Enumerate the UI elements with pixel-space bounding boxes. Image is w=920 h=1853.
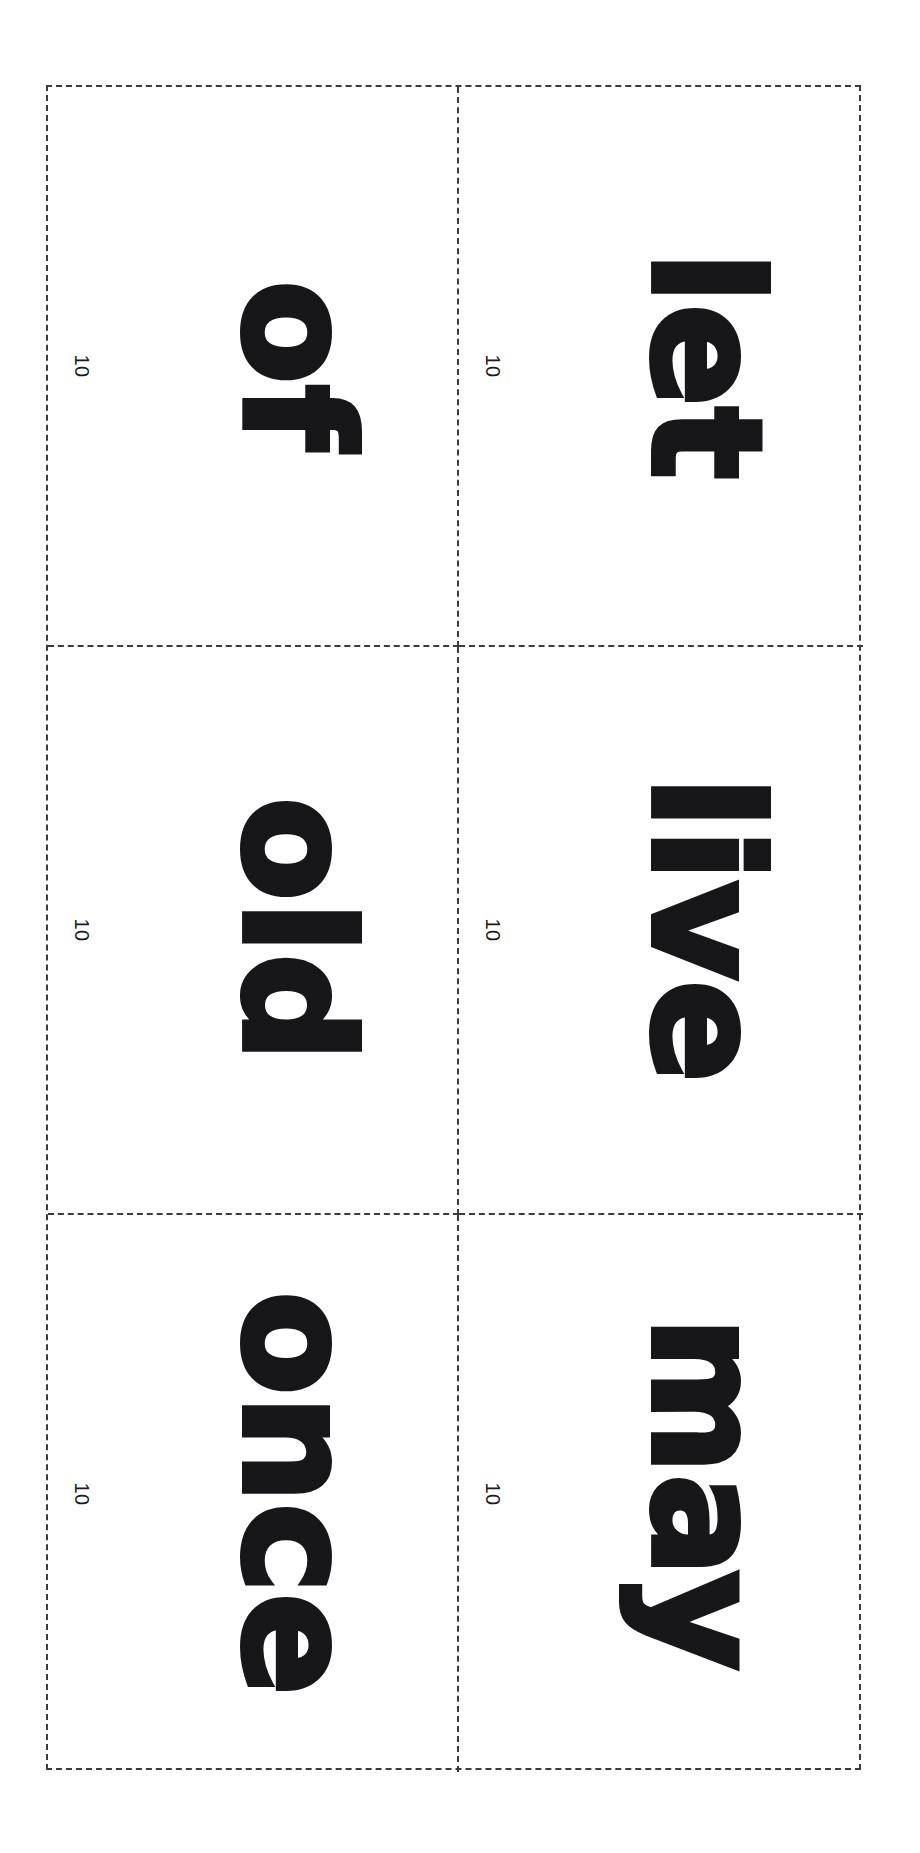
flashcard-cell[interactable]: may 10 bbox=[459, 1215, 863, 1772]
flashcard-tag: 10 bbox=[483, 918, 503, 941]
flashcard-word: once bbox=[223, 1291, 373, 1696]
flashcard-word-container: let bbox=[459, 87, 863, 645]
flashcard-sheet: of 10 let 10 old 10 live 10 bbox=[46, 85, 861, 1770]
flashcard-tag: 10 bbox=[483, 354, 503, 377]
flashcard-word-container: live bbox=[459, 647, 863, 1213]
flashcard-cell[interactable]: of 10 bbox=[48, 87, 459, 647]
flashcard-word: may bbox=[631, 1317, 781, 1671]
flashcard-word: let bbox=[631, 252, 781, 480]
flashcard-word: old bbox=[223, 798, 373, 1063]
flashcard-word: live bbox=[631, 777, 781, 1083]
flashcard-cell[interactable]: once 10 bbox=[48, 1215, 459, 1772]
flashcard-tag: 10 bbox=[483, 1482, 503, 1505]
flashcard-cell[interactable]: old 10 bbox=[48, 647, 459, 1215]
flashcard-word-container: may bbox=[459, 1215, 863, 1772]
flashcard-tag: 10 bbox=[72, 918, 92, 941]
flashcard-word-container: old bbox=[48, 647, 457, 1213]
flashcard-tag: 10 bbox=[72, 1482, 92, 1505]
flashcard-cell[interactable]: let 10 bbox=[459, 87, 863, 647]
flashcard-word-container: of bbox=[48, 87, 457, 645]
flashcard-cell[interactable]: live 10 bbox=[459, 647, 863, 1215]
flashcard-word-container: once bbox=[48, 1215, 457, 1772]
flashcard-word: of bbox=[223, 281, 373, 451]
flashcard-tag: 10 bbox=[72, 354, 92, 377]
page-canvas: of 10 let 10 old 10 live 10 bbox=[0, 0, 920, 1853]
